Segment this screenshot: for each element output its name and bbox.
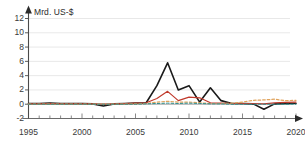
y-tick-label: 4 <box>2 70 24 80</box>
y-tick-label: 2 <box>2 84 24 94</box>
y-tick-label: 10 <box>2 27 24 37</box>
y-tick-label: 12 <box>2 13 24 23</box>
y-tick-label: 6 <box>2 56 24 66</box>
y-axis-arrow <box>25 6 32 14</box>
x-axis-arrow <box>295 115 303 122</box>
y-tick-label: 0 <box>2 99 24 109</box>
x-tick-label: 2020 <box>276 127 305 137</box>
x-axis-ticks <box>29 114 297 119</box>
x-tick-label: 2000 <box>62 127 102 137</box>
line-chart <box>0 0 305 147</box>
x-tick-label: 2005 <box>116 127 156 137</box>
y-tick-label: 8 <box>2 42 24 52</box>
plot-svg <box>0 0 305 147</box>
y-tick-label: -2 <box>2 113 24 123</box>
x-tick-label: 2010 <box>169 127 209 137</box>
x-tick-label: 2015 <box>223 127 263 137</box>
chart-screenshot: Mrd. US-$ 121086420-2 199520002005201020… <box>0 0 305 147</box>
x-tick-label: 1995 <box>9 127 49 137</box>
data-series-group <box>29 63 297 109</box>
gridlines <box>29 19 291 105</box>
